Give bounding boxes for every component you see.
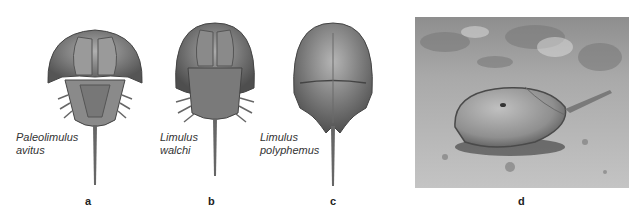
species-label-b: Limulus walchi: [160, 131, 198, 157]
panel-letter-a: a: [85, 195, 91, 207]
horseshoe-crab-c-icon: [288, 18, 378, 188]
species-label-a: Paleolimulus avitus: [16, 131, 78, 157]
photo-horseshoe-crab-seabed: [415, 17, 629, 188]
species-genus: Limulus: [160, 131, 198, 144]
illustration-limulus-polyphemus: [288, 18, 378, 188]
seabed-photo-icon: [415, 17, 629, 188]
species-epithet: walchi: [160, 144, 198, 157]
panel-letter-d: d: [518, 195, 525, 207]
species-genus: Limulus: [260, 131, 319, 144]
illustration-paleolimulus-avitus: [40, 25, 150, 190]
species-epithet: polyphemus: [260, 144, 319, 157]
species-label-c: Limulus polyphemus: [260, 131, 319, 157]
illustration-limulus-walchi: [170, 18, 260, 183]
horseshoe-crab-b-icon: [170, 18, 260, 183]
panel-letter-b: b: [208, 195, 215, 207]
panel-letter-c: c: [330, 195, 336, 207]
species-genus: Paleolimulus: [16, 131, 78, 144]
species-epithet: avitus: [16, 144, 78, 157]
horseshoe-crab-a-icon: [40, 25, 150, 190]
